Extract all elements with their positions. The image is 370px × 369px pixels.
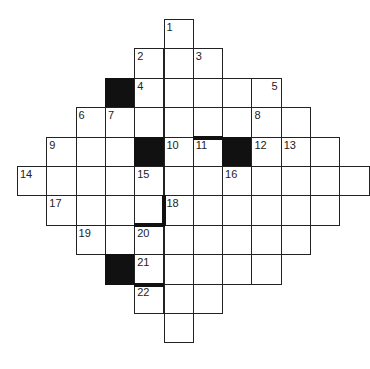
- clue-number: 17: [49, 197, 61, 209]
- clue-number: 18: [167, 197, 179, 209]
- crossword-cell[interactable]: 8: [251, 107, 281, 137]
- crossword-cell[interactable]: 21: [134, 254, 164, 284]
- clue-number: 19: [79, 227, 91, 239]
- clue-number: 8: [254, 109, 260, 121]
- crossword-cell[interactable]: [193, 225, 223, 255]
- clue-number: 5: [272, 80, 278, 92]
- clue-number: 6: [79, 109, 85, 121]
- clue-number: 10: [167, 139, 179, 151]
- crossword-cell[interactable]: [281, 166, 311, 196]
- crossword-cell[interactable]: [222, 225, 252, 255]
- crossword-cell[interactable]: [105, 137, 135, 167]
- crossword-cell[interactable]: [76, 137, 106, 167]
- crossword-cell[interactable]: [105, 225, 135, 255]
- crossword-cell[interactable]: 12: [251, 137, 281, 167]
- clue-number: 11: [196, 139, 207, 151]
- crossword-cell[interactable]: [164, 166, 194, 196]
- clue-number: 2: [137, 50, 143, 62]
- crossword-cell[interactable]: 13: [281, 137, 311, 167]
- clue-number: 3: [196, 50, 202, 62]
- crossword-cell[interactable]: [310, 166, 340, 196]
- crossword-cell[interactable]: [339, 166, 369, 196]
- crossword-cell[interactable]: 6: [76, 107, 106, 137]
- clue-number: 16: [225, 168, 237, 180]
- crossword-cell[interactable]: 10: [164, 137, 194, 167]
- crossword-cell[interactable]: [251, 195, 281, 225]
- crossword-cell[interactable]: [251, 254, 281, 284]
- crossword-cell[interactable]: [105, 166, 135, 196]
- crossword-cell[interactable]: [164, 254, 194, 284]
- crossword-cell[interactable]: 4: [134, 78, 164, 108]
- clue-number: 13: [284, 139, 296, 151]
- crossword-cell[interactable]: [222, 107, 252, 137]
- clue-number: 9: [49, 139, 55, 151]
- crossword-cell[interactable]: 22: [134, 284, 164, 314]
- clue-number: 12: [254, 139, 266, 151]
- clue-number: 1: [167, 21, 173, 33]
- thick-bar: [193, 136, 223, 140]
- crossword-cell[interactable]: 14: [17, 166, 47, 196]
- crossword-cell[interactable]: 18: [164, 195, 194, 225]
- clue-number: 21: [137, 256, 149, 268]
- crossword-cell[interactable]: 15: [134, 166, 164, 196]
- crossword-cell[interactable]: 20: [134, 225, 164, 255]
- crossword-cell[interactable]: [281, 107, 311, 137]
- crossword-cell[interactable]: [164, 313, 194, 343]
- crossword-cell[interactable]: [310, 137, 340, 167]
- clue-number: 4: [137, 80, 143, 92]
- black-square: [105, 254, 135, 284]
- thick-bar: [162, 195, 166, 225]
- crossword-cell[interactable]: [134, 107, 164, 137]
- clue-number: 20: [137, 227, 149, 239]
- crossword-cell[interactable]: [193, 166, 223, 196]
- crossword-cell[interactable]: [193, 254, 223, 284]
- crossword-cell[interactable]: 17: [46, 195, 76, 225]
- crossword-cell[interactable]: 11: [193, 137, 223, 167]
- clue-number: 14: [20, 168, 32, 180]
- clue-number: 15: [137, 168, 149, 180]
- black-square: [222, 137, 252, 167]
- crossword-cell[interactable]: 3: [193, 48, 223, 78]
- crossword-cell[interactable]: [222, 195, 252, 225]
- crossword-cell[interactable]: [251, 225, 281, 255]
- black-square: [134, 137, 164, 167]
- crossword-cell[interactable]: [310, 195, 340, 225]
- thick-bar: [134, 283, 164, 287]
- crossword-cell[interactable]: 19: [76, 225, 106, 255]
- crossword-cell[interactable]: 2: [134, 48, 164, 78]
- crossword-cell[interactable]: [193, 195, 223, 225]
- crossword-cell[interactable]: [76, 166, 106, 196]
- crossword-cell[interactable]: [164, 284, 194, 314]
- crossword-cell[interactable]: 9: [46, 137, 76, 167]
- crossword-cell[interactable]: [164, 78, 194, 108]
- crossword-cell[interactable]: [281, 195, 311, 225]
- crossword-cell[interactable]: [222, 78, 252, 108]
- crossword-cell[interactable]: [193, 107, 223, 137]
- crossword-cell[interactable]: [164, 225, 194, 255]
- crossword-cell[interactable]: 1: [164, 19, 194, 49]
- clue-number: 22: [137, 286, 149, 298]
- thick-bar: [134, 223, 165, 227]
- clue-number: 7: [108, 109, 114, 121]
- crossword-cell[interactable]: 7: [105, 107, 135, 137]
- crossword-cell[interactable]: [251, 166, 281, 196]
- crossword-cell[interactable]: 16: [222, 166, 252, 196]
- black-square: [105, 78, 135, 108]
- crossword-cell[interactable]: [134, 195, 164, 225]
- crossword-cell[interactable]: [76, 195, 106, 225]
- crossword-cell[interactable]: [193, 78, 223, 108]
- crossword-cell[interactable]: [281, 225, 311, 255]
- crossword-cell[interactable]: [193, 284, 223, 314]
- crossword-cell[interactable]: [164, 48, 194, 78]
- crossword-cell[interactable]: [46, 166, 76, 196]
- crossword-cell[interactable]: 5: [251, 78, 281, 108]
- crossword-cell[interactable]: [222, 254, 252, 284]
- crossword-cell[interactable]: [105, 195, 135, 225]
- crossword-cell[interactable]: [164, 107, 194, 137]
